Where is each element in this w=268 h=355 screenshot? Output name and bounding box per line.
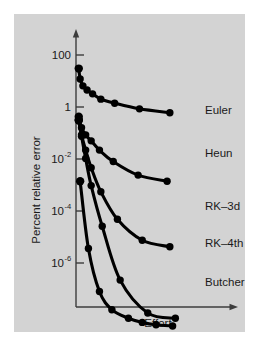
- data-point: [136, 105, 143, 112]
- data-point: [144, 309, 151, 316]
- y-tick-label-1e-4: 10 -4: [51, 202, 71, 217]
- data-point: [96, 146, 103, 153]
- data-point: [166, 243, 173, 250]
- y-axis-title: Percent relative error: [30, 136, 42, 244]
- data-point: [163, 178, 170, 185]
- series-label-rk-3d: RK–3d: [205, 200, 240, 212]
- data-point: [82, 155, 89, 162]
- data-point: [97, 188, 104, 195]
- series-label-rk-4th: RK–4th: [205, 237, 243, 249]
- series-label-butcher: Butcher: [205, 276, 245, 288]
- data-point: [139, 237, 146, 244]
- y-tick-label-1e-2: 10 -2: [51, 150, 71, 165]
- y-tick-exponent-1e-6: -6: [65, 254, 72, 263]
- y-tick-exponent-1e-2: -2: [65, 150, 72, 159]
- data-point: [125, 315, 132, 322]
- y-axis-arrowhead: [73, 29, 79, 38]
- series-line-rk-4th: [79, 121, 176, 319]
- data-point: [111, 100, 118, 107]
- series-label-heun: Heun: [205, 147, 233, 159]
- data-point: [97, 95, 104, 102]
- data-point: [85, 245, 92, 252]
- data-point: [134, 171, 141, 178]
- data-point: [76, 75, 83, 82]
- x-axis-arrowhead: [230, 304, 239, 310]
- y-tick-label-100: 100: [52, 49, 71, 61]
- series-layer: [75, 64, 179, 329]
- data-point: [152, 321, 159, 328]
- series-label-euler: Euler: [205, 104, 232, 116]
- y-tick-label-1e-6: 10 -6: [51, 254, 71, 269]
- data-point: [110, 158, 117, 165]
- data-point: [169, 322, 176, 329]
- data-point: [75, 64, 83, 72]
- data-point: [99, 223, 106, 230]
- data-point: [89, 90, 96, 97]
- figure-container: 100 1 10 -2 10 -4 10 -6 Percent relative…: [0, 0, 268, 355]
- data-point: [96, 288, 103, 295]
- series-euler: [75, 64, 174, 116]
- y-tick-mantissa-1e-2: 10: [51, 153, 64, 165]
- data-point: [139, 319, 146, 326]
- chart-plot-area: 100 1 10 -2 10 -4 10 -6 Percent relative…: [0, 0, 268, 355]
- y-tick-exponent-1e-4: -4: [65, 202, 72, 211]
- data-point: [166, 109, 173, 116]
- y-tick-mantissa-1e-4: 10: [51, 205, 64, 217]
- series-rk-4th: [75, 116, 179, 322]
- data-point: [87, 182, 94, 189]
- y-tick-mantissa-1e-6: 10: [51, 257, 64, 269]
- data-point: [75, 116, 83, 124]
- data-point: [76, 177, 84, 185]
- data-point: [116, 276, 123, 283]
- data-point: [114, 216, 121, 223]
- data-point: [78, 133, 85, 140]
- data-point: [87, 137, 94, 144]
- data-point: [108, 306, 115, 313]
- data-point: [172, 315, 179, 322]
- y-tick-label-1: 1: [65, 101, 71, 113]
- x-axis: [76, 304, 238, 310]
